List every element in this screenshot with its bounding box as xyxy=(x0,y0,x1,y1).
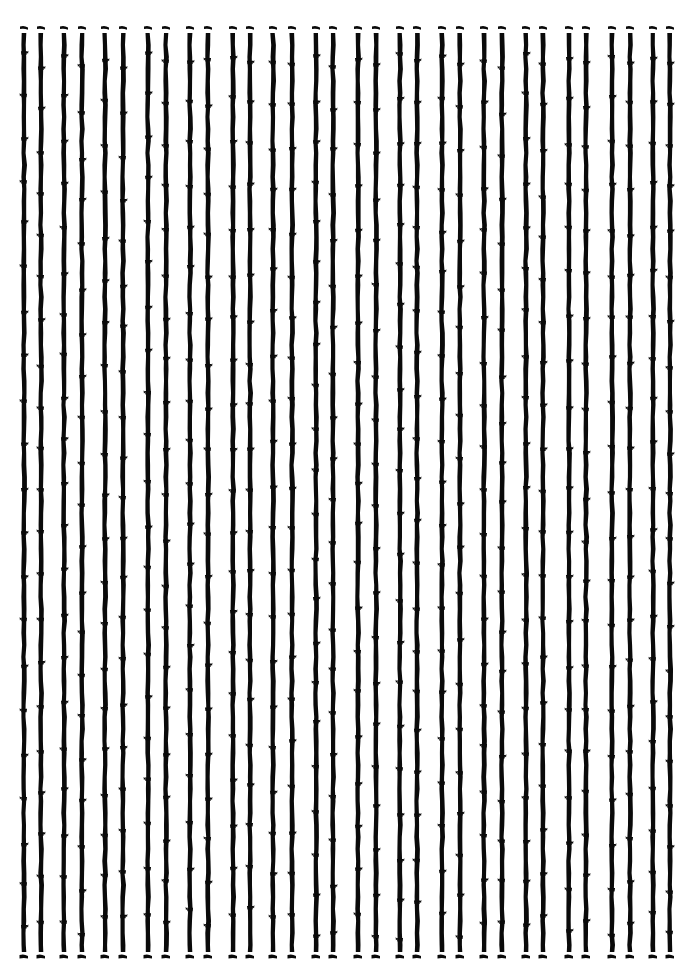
stalk-node xyxy=(566,666,574,670)
stalk-node xyxy=(330,884,338,888)
stalk-node xyxy=(186,399,194,403)
stalk-node xyxy=(289,316,297,320)
stalk-node xyxy=(230,139,238,143)
stalk-node xyxy=(565,225,573,229)
stalk-node xyxy=(247,905,255,909)
stalk-node xyxy=(373,328,381,332)
stalk-node xyxy=(355,735,363,739)
stalk-node xyxy=(329,541,337,545)
stalk-node xyxy=(438,737,446,741)
stalk-node xyxy=(330,752,338,756)
stalk-node xyxy=(565,708,573,712)
stalk-node xyxy=(649,569,657,573)
stalk-node xyxy=(457,638,465,642)
stalk-node xyxy=(355,321,363,325)
stalk-body xyxy=(79,33,85,952)
bamboo-stalk xyxy=(162,26,171,959)
stalk-node xyxy=(288,871,296,875)
stalk-node xyxy=(145,175,153,179)
stalk-node xyxy=(187,643,195,647)
stalk-node xyxy=(499,375,507,379)
stalk-node xyxy=(396,468,404,472)
bamboo-stalk xyxy=(396,26,405,959)
stalk-node xyxy=(247,227,255,231)
stalk-node xyxy=(396,937,404,941)
stalk-node xyxy=(413,265,421,269)
stalk-node xyxy=(499,754,507,758)
stalk-node xyxy=(373,681,381,685)
stalk-node xyxy=(246,362,254,366)
stalk-node xyxy=(583,316,591,320)
stalk-node xyxy=(667,102,675,106)
stalk-node xyxy=(288,697,296,701)
stalk-body xyxy=(120,33,126,952)
stalk-node xyxy=(372,504,380,508)
stalk-node xyxy=(666,275,674,279)
stalk-node xyxy=(102,493,110,497)
stalk-node xyxy=(269,745,277,749)
stalk-node xyxy=(144,736,152,740)
stalk-node xyxy=(247,182,255,186)
stalk-node xyxy=(354,912,362,916)
stalk-node xyxy=(456,853,464,857)
stalk-node xyxy=(187,522,195,526)
stalk-node xyxy=(457,239,465,243)
stalk-node xyxy=(61,139,68,143)
stalk-node xyxy=(396,680,404,684)
stalk-top-cap xyxy=(20,26,28,30)
stalk-node xyxy=(329,628,337,632)
stalk-node xyxy=(163,795,171,799)
stalk-node xyxy=(60,747,68,751)
stalk-node xyxy=(120,456,128,460)
stalk-node xyxy=(312,383,320,387)
stalk-top-cap xyxy=(456,26,464,30)
stalk-node xyxy=(229,734,237,738)
stalk-node xyxy=(583,579,591,583)
stalk-node xyxy=(313,342,321,346)
stalk-node xyxy=(498,878,506,882)
bamboo-stalk xyxy=(498,26,507,959)
stalk-node xyxy=(246,141,254,145)
stalk-node xyxy=(163,665,171,669)
stalk-top-cap xyxy=(413,26,421,30)
stalk-node xyxy=(269,148,277,152)
stalk-node xyxy=(119,370,127,374)
stalk-node xyxy=(145,91,153,95)
stalk-node xyxy=(205,275,213,279)
stalk-node xyxy=(667,61,675,65)
stalk-node xyxy=(145,525,153,529)
stalk-node xyxy=(498,288,506,292)
stalk-node xyxy=(608,755,616,759)
stalk-node xyxy=(457,811,465,815)
stalk-node xyxy=(61,481,68,485)
stalk-node xyxy=(312,468,320,472)
stalk-node xyxy=(79,288,87,292)
stalk-node xyxy=(329,284,337,288)
stalk-node xyxy=(21,753,29,757)
stalk-node xyxy=(102,58,110,62)
stalk-node xyxy=(101,793,109,797)
stalk-node xyxy=(270,705,278,709)
stalk-node xyxy=(101,667,109,671)
stalk-node xyxy=(373,893,381,897)
stalk-node xyxy=(566,57,574,61)
stalk-node xyxy=(330,108,338,112)
stalk-top-cap xyxy=(60,26,68,30)
stalk-node xyxy=(330,238,338,242)
stalk-node xyxy=(205,492,213,496)
stalk-node xyxy=(456,771,464,775)
stalk-node xyxy=(78,630,86,634)
stalk-node xyxy=(247,783,255,787)
stalk-node xyxy=(438,188,446,192)
stalk-node xyxy=(649,357,657,361)
stalk-top-cap xyxy=(186,26,194,30)
stalk-node xyxy=(78,713,86,717)
stalk-node xyxy=(626,144,634,148)
stalk-node xyxy=(540,447,548,451)
stalk-node xyxy=(120,536,128,540)
stalk-node xyxy=(205,797,213,801)
stalk-node xyxy=(230,531,238,535)
stalk-node xyxy=(480,145,488,149)
stalk-top-cap xyxy=(329,26,337,30)
stalk-node xyxy=(246,402,254,406)
